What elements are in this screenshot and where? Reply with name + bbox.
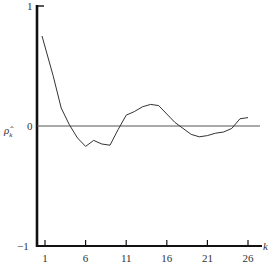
x-tick-label: 1 xyxy=(42,252,48,264)
x-tick-label: 6 xyxy=(83,252,89,264)
y-tick-label-zero: 0 xyxy=(27,120,33,132)
x-tick-label: 21 xyxy=(202,252,213,264)
x-tick-label: 26 xyxy=(243,252,255,264)
y-tick-label-bottom: −1 xyxy=(17,240,29,252)
y-tick-label-top: 1 xyxy=(27,0,33,12)
autocorrelation-chart: 1611162126 1 0 −1 ρ̂k k xyxy=(0,0,268,273)
y-axis-label: ρ̂k xyxy=(3,124,14,139)
x-tick-label: 16 xyxy=(161,252,173,264)
autocorrelation-line xyxy=(42,36,248,146)
x-tick-label: 11 xyxy=(121,252,132,264)
x-axis-label: k xyxy=(263,240,268,252)
x-ticks: 1611162126 xyxy=(42,240,254,264)
